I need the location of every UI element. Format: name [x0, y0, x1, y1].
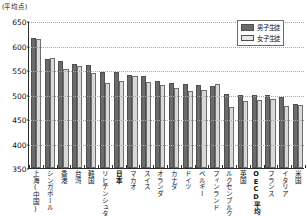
legend-label: 男子生徒	[257, 23, 280, 32]
x-axis-category-label: 韓国	[87, 170, 94, 183]
x-axis-tick-mark	[236, 165, 237, 168]
x-axis-tick-mark	[222, 165, 223, 168]
x-axis-tick-mark	[43, 165, 44, 168]
x-axis-tick-mark	[84, 165, 85, 168]
y-axis-tick-mark	[27, 144, 30, 145]
y-axis-tick-mark	[27, 71, 30, 72]
y-axis-tick-label: 600	[12, 42, 26, 51]
bar-girls	[188, 91, 193, 168]
x-axis-tick-mark	[277, 165, 278, 168]
x-axis-category-label: 上海(中国)	[32, 170, 39, 212]
x-axis-category-label: 台湾	[73, 170, 80, 183]
y-axis-tick-mark	[27, 22, 30, 23]
bar-girls	[284, 106, 289, 168]
y-axis-tick-mark	[27, 95, 30, 96]
gridline	[29, 120, 304, 121]
bar-girls	[201, 90, 206, 168]
y-axis-tick-mark	[27, 120, 30, 121]
legend-swatch-boys	[241, 24, 254, 31]
x-axis-tick-mark	[208, 165, 209, 168]
x-axis-category-label: ベルギー	[197, 170, 204, 197]
bar-chart: (平均点) 350400450500550600650 上海(中国)シンガポール…	[0, 0, 307, 216]
x-axis-tick-mark	[153, 165, 154, 168]
x-axis-category-label: スイス	[142, 170, 149, 190]
x-axis-tick-mark	[139, 165, 140, 168]
bar-girls	[229, 107, 234, 168]
x-axis-tick-mark	[112, 165, 113, 168]
x-axis-category-label: フランス	[266, 170, 273, 197]
y-axis-tick-label: 550	[12, 67, 26, 76]
x-axis-tick-mark	[181, 165, 182, 168]
x-axis-category-label: マカオ	[128, 170, 135, 190]
x-axis-category-label: OECD平均	[252, 170, 259, 214]
x-axis-tick-mark	[305, 165, 306, 168]
x-axis-tick-mark	[29, 165, 30, 168]
y-axis-tick-mark	[27, 46, 30, 47]
gridline	[29, 47, 304, 48]
y-axis-unit-label: (平均点)	[2, 1, 27, 11]
x-axis-category-label: カナダ	[170, 170, 177, 190]
bar-girls	[215, 84, 220, 168]
x-axis-category-label: リヒテンシュタイン	[101, 170, 108, 216]
x-axis-tick-mark	[98, 165, 99, 168]
x-axis-tick-mark	[126, 165, 127, 168]
x-axis-category-label: シンガポール	[45, 170, 52, 210]
bar-girls	[119, 81, 124, 168]
x-axis-category-label: オランダ	[156, 170, 163, 197]
x-axis-category-label: 米国	[294, 170, 301, 183]
x-axis-tick-mark	[57, 165, 58, 168]
legend-item-boys: 男子生徒	[241, 23, 280, 32]
gridline	[29, 145, 304, 146]
gridline	[29, 71, 304, 72]
x-axis-tick-mark	[70, 165, 71, 168]
legend-label: 女子生徒	[257, 34, 280, 43]
x-axis-category-label: ルクセンブルク	[225, 170, 232, 216]
legend-item-girls: 女子生徒	[241, 34, 280, 43]
x-axis-category-label: 日本	[114, 170, 121, 183]
bar-girls	[270, 99, 275, 168]
x-axis-category-label: 英国	[239, 170, 246, 183]
bar-girls	[174, 88, 179, 168]
y-axis-tick-label: 350	[12, 165, 26, 174]
y-axis-tick-label: 450	[12, 116, 26, 125]
x-axis-category-label: ドイツ	[183, 170, 190, 190]
bar-girls	[243, 101, 248, 168]
x-axis-category-label: イタリア	[280, 170, 287, 197]
y-axis-tick-label: 650	[12, 18, 26, 27]
bar-girls	[50, 58, 55, 168]
bar-girls	[36, 39, 41, 168]
x-axis-category-label: フィンランド	[211, 170, 218, 210]
chart-legend: 男子生徒女子生徒	[237, 20, 284, 46]
bar-girls	[257, 100, 262, 168]
y-axis-tick-label: 500	[12, 91, 26, 100]
x-axis-labels: 上海(中国)シンガポール香港台湾韓国リヒテンシュタイン日本マカオスイスオランダカ…	[28, 170, 304, 216]
bar-girls	[160, 85, 165, 168]
bar-girls	[298, 105, 303, 168]
x-axis-tick-mark	[167, 165, 168, 168]
gridline	[29, 96, 304, 97]
legend-swatch-girls	[241, 35, 254, 42]
x-axis-category-label: 香港	[59, 170, 66, 183]
bar-girls	[63, 69, 68, 168]
bar-girls	[132, 76, 137, 168]
x-axis-tick-mark	[264, 165, 265, 168]
x-axis-tick-mark	[195, 165, 196, 168]
x-axis-tick-mark	[291, 165, 292, 168]
y-axis-tick-label: 400	[12, 140, 26, 149]
bar-girls	[77, 66, 82, 168]
x-axis-tick-mark	[250, 165, 251, 168]
